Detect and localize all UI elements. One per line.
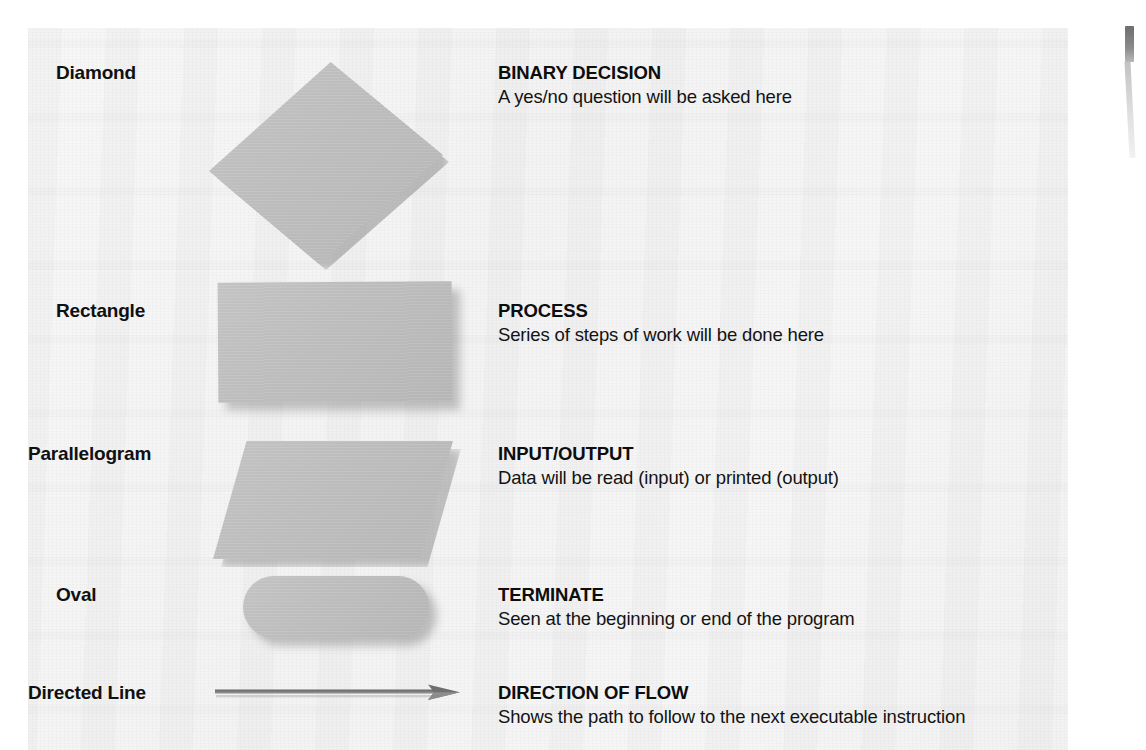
diamond-face [209, 62, 443, 264]
description-direction-of-flow: DIRECTION OF FLOW Shows the path to foll… [498, 682, 965, 728]
paper-sheet [28, 28, 1068, 750]
shape-name-rectangle: Rectangle [56, 300, 145, 322]
page-edge-tab [1125, 26, 1134, 62]
shape-name-directed-line: Directed Line [28, 682, 146, 704]
shape-name-diamond: Diamond [56, 62, 136, 84]
description-text: Series of steps of work will be done her… [498, 324, 824, 347]
description-title: PROCESS [498, 300, 824, 322]
arrow-right-svg [212, 678, 464, 708]
description-title: BINARY DECISION [498, 62, 792, 84]
description-title: TERMINATE [498, 584, 855, 606]
description-process: PROCESS Series of steps of work will be … [498, 300, 824, 346]
description-binary-decision: BINARY DECISION A yes/no question will b… [498, 62, 792, 108]
description-input-output: INPUT/OUTPUT Data will be read (input) o… [498, 443, 839, 489]
description-text: Seen at the beginning or end of the prog… [498, 608, 855, 631]
description-text: Data will be read (input) or printed (ou… [498, 467, 839, 490]
parallelogram-face [213, 441, 453, 559]
parallelogram-shape [212, 440, 467, 568]
rectangle-shape [218, 282, 466, 412]
oval-face [243, 576, 429, 638]
shape-name-oval: Oval [56, 584, 96, 606]
description-title: INPUT/OUTPUT [498, 443, 839, 465]
oval-shape [243, 576, 443, 652]
description-text: Shows the path to follow to the next exe… [498, 706, 965, 729]
description-text: A yes/no question will be asked here [498, 86, 792, 109]
description-title: DIRECTION OF FLOW [498, 682, 965, 704]
diamond-shape [207, 60, 457, 278]
page-edge-tail [1124, 62, 1135, 158]
rectangle-face [218, 281, 453, 403]
arrow-right-icon [212, 678, 464, 708]
description-terminate: TERMINATE Seen at the beginning or end o… [498, 584, 855, 630]
shape-name-parallelogram: Parallelogram [28, 443, 151, 465]
scanned-page: Diamond BINARY DECISION A yes/no questio… [0, 0, 1146, 750]
